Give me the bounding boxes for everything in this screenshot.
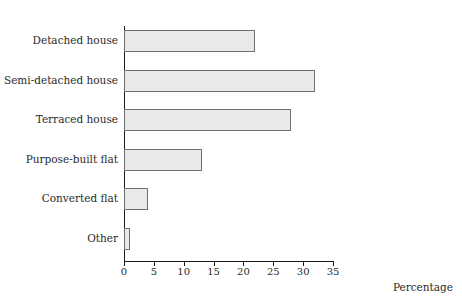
x-axis-tick-label: 35 [318, 266, 348, 277]
category-label: Other [0, 232, 118, 244]
bar [124, 30, 255, 52]
x-axis-tick-label: 25 [258, 266, 288, 277]
category-label: Purpose-built flat [0, 153, 118, 165]
bar-rect [124, 109, 291, 131]
bar-rect [124, 149, 202, 171]
x-axis-tick-label: 15 [199, 266, 229, 277]
x-axis-title: Percentage [263, 281, 453, 293]
bar [124, 109, 291, 131]
category-label: Detached house [0, 34, 118, 46]
bar-rect [124, 30, 255, 52]
plot-area [124, 26, 333, 261]
bar [124, 228, 130, 250]
category-label: Converted flat [0, 192, 118, 204]
bar [124, 149, 202, 171]
bar-chart-figure: Detached houseSemi-detached houseTerrace… [0, 0, 462, 299]
bar [124, 188, 148, 210]
bar-rect [124, 188, 148, 210]
x-axis-tick-label: 10 [169, 266, 199, 277]
category-label: Semi-detached house [0, 74, 118, 86]
x-axis-tick-label: 0 [109, 266, 139, 277]
bar-rect [124, 70, 315, 92]
bar [124, 70, 315, 92]
bar-rect [124, 228, 130, 250]
category-label: Terraced house [0, 113, 118, 125]
x-axis-tick-label: 30 [288, 266, 318, 277]
x-axis-tick-label: 20 [228, 266, 258, 277]
x-axis-tick-label: 5 [139, 266, 169, 277]
